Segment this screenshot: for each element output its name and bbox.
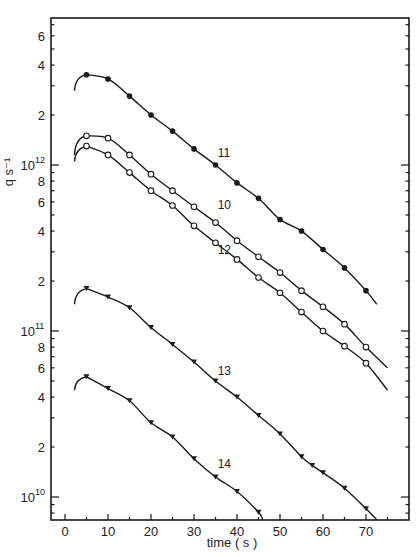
- series-13: [74, 286, 376, 520]
- data-point: [191, 223, 197, 229]
- data-point: [342, 321, 348, 327]
- y-tick-label: 6: [38, 195, 45, 210]
- y-tick-label: 2: [38, 440, 45, 455]
- series-curve: [74, 75, 376, 305]
- data-point: [84, 72, 90, 78]
- data-point: [127, 93, 133, 99]
- y-tick-label: 8: [38, 174, 45, 189]
- data-point: [320, 247, 326, 253]
- x-tick-label: 50: [273, 524, 287, 539]
- plot-frame: [51, 18, 409, 520]
- data-point: [213, 162, 219, 168]
- data-point: [256, 196, 262, 202]
- data-point: [277, 270, 283, 276]
- data-point: [363, 344, 369, 350]
- data-point: [105, 76, 111, 82]
- data-point: [170, 203, 176, 209]
- data-point: [256, 254, 262, 260]
- data-point: [127, 152, 133, 158]
- chart: 10102468101124681012246010203040506070 1…: [0, 0, 420, 557]
- data-point: [234, 238, 240, 244]
- series-label-13: 13: [218, 364, 232, 378]
- axes: 10102468101124681012246010203040506070: [21, 18, 409, 539]
- data-point: [148, 171, 154, 177]
- y-tick-exponent: 12: [35, 155, 45, 165]
- data-point: [320, 328, 326, 334]
- y-tick-label: 8: [38, 340, 45, 355]
- data-point: [299, 309, 305, 315]
- series-label-10: 10: [218, 198, 232, 212]
- data-point: [84, 143, 90, 149]
- x-tick-label: 20: [144, 524, 158, 539]
- y-axis-title: q s⁻¹: [1, 157, 16, 186]
- y-tick-exponent: 11: [35, 321, 44, 331]
- x-tick-label: 70: [359, 524, 373, 539]
- data-point: [213, 220, 219, 226]
- data-point: [299, 228, 305, 234]
- y-tick-label: 2: [38, 274, 45, 289]
- x-axis-title: time ( s ): [207, 535, 258, 550]
- y-tick-label: 6: [38, 29, 45, 44]
- series-curve: [74, 377, 262, 520]
- y-tick-label: 6: [38, 361, 45, 376]
- data-point: [127, 170, 133, 176]
- series-label-14: 14: [218, 457, 232, 471]
- y-tick-label: 4: [38, 58, 45, 73]
- series-label-11: 11: [218, 146, 231, 160]
- y-tick-label: 10: [21, 324, 35, 339]
- data-point: [277, 217, 283, 223]
- data-point: [170, 188, 176, 194]
- data-point: [191, 146, 197, 152]
- y-tick-exponent: 10: [35, 487, 45, 497]
- series-12: [74, 143, 387, 390]
- y-tick-label: 4: [38, 224, 45, 239]
- data-point: [170, 128, 176, 134]
- data-point: [191, 204, 197, 210]
- series-label-12: 12: [218, 243, 232, 257]
- data-point: [234, 180, 240, 186]
- series-curve: [74, 146, 387, 390]
- data-point: [342, 265, 348, 271]
- data-point: [363, 288, 369, 294]
- data-point: [320, 304, 326, 310]
- data-point: [234, 257, 240, 263]
- data-point: [105, 295, 111, 300]
- series-group: [74, 72, 387, 520]
- y-tick-label: 10: [21, 490, 35, 505]
- y-tick-label: 2: [38, 108, 45, 123]
- x-tick-label: 0: [61, 524, 68, 539]
- data-point: [148, 112, 154, 118]
- data-point: [342, 343, 348, 349]
- y-tick-label: 10: [21, 158, 35, 173]
- data-point: [299, 288, 305, 294]
- data-point: [256, 275, 262, 281]
- data-point: [148, 188, 154, 194]
- data-point: [105, 152, 111, 158]
- series-11: [74, 72, 376, 304]
- data-point: [105, 135, 111, 141]
- series-curve: [74, 289, 376, 520]
- data-point: [84, 133, 90, 139]
- x-tick-label: 30: [187, 524, 201, 539]
- y-tick-label: 4: [38, 390, 45, 405]
- x-tick-label: 60: [316, 524, 330, 539]
- series-14: [74, 374, 262, 519]
- x-tick-label: 10: [101, 524, 115, 539]
- data-point: [363, 360, 369, 366]
- data-point: [277, 290, 283, 296]
- labels-group: 1110121314: [218, 146, 232, 471]
